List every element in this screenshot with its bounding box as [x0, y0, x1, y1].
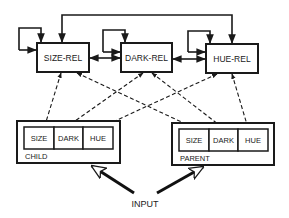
input-to-child-arrow: [92, 166, 134, 193]
dark-rel-parent-dark-dashed: [152, 73, 223, 128]
input-label: INPUT: [132, 199, 160, 209]
node-child: SIZE DARK HUE CHILD: [17, 121, 120, 163]
dark-rel-label: DARK-REL: [125, 53, 168, 63]
hue-rel-child-hue-dashed: [104, 74, 217, 126]
input-to-parent-arrow: [157, 167, 203, 193]
size-rel-parent-size-dashed: [77, 73, 190, 126]
node-size-rel: SIZE-REL: [37, 43, 89, 72]
dark-rel-child-dark-dashed: [68, 73, 143, 126]
parent-label: PARENT: [180, 154, 210, 163]
size-hue-top-connector: [62, 15, 232, 43]
child-hue-cell: HUE: [90, 134, 106, 143]
child-label: CHILD: [25, 152, 48, 161]
hue-rel-parent-hue-dashed: [232, 74, 248, 128]
size-rel-label: SIZE-REL: [44, 53, 83, 63]
parent-size-cell: SIZE: [186, 136, 203, 145]
child-size-cell: SIZE: [31, 134, 48, 143]
node-hue-rel: HUE-REL: [206, 44, 258, 73]
hue-rel-label: HUE-REL: [213, 54, 251, 64]
child-dark-cell: DARK: [58, 134, 79, 143]
node-dark-rel: DARK-REL: [121, 43, 172, 72]
parent-hue-cell: HUE: [245, 136, 261, 145]
relation-network-diagram: SIZE-REL DARK-REL HUE-REL SIZE DARK HUE …: [0, 0, 289, 218]
node-parent: SIZE DARK HUE PARENT: [172, 123, 274, 165]
parent-dark-cell: DARK: [213, 136, 234, 145]
size-rel-child-size-dashed: [45, 73, 61, 125]
